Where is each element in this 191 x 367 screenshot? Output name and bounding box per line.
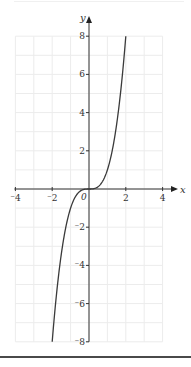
- origin-label: 0: [81, 192, 87, 202]
- x-tick-label: ⁻4: [10, 193, 21, 203]
- x-tick-label: 4: [160, 193, 166, 203]
- x-axis-arrow-icon: [171, 186, 178, 192]
- y-tick-label: ⁻6: [75, 299, 86, 309]
- y-tick-label: 4: [79, 108, 85, 118]
- y-axis-label: y: [79, 12, 86, 23]
- x-tick-label: 2: [123, 193, 129, 203]
- cubic-graph: ⁻4⁻224⁻8⁻6⁻4⁻22468 x y 0: [0, 0, 191, 367]
- axes: [14, 16, 178, 342]
- x-tick-label: ⁻2: [47, 193, 57, 203]
- y-tick-label: 2: [79, 146, 85, 156]
- y-tick-label: 8: [79, 31, 85, 41]
- y-tick-label: ⁻8: [75, 337, 86, 347]
- x-axis-label: x: [180, 184, 186, 195]
- y-axis-arrow-icon: [86, 16, 92, 23]
- y-tick-label: 6: [79, 69, 85, 79]
- bottom-divider: [0, 356, 191, 358]
- y-tick-label: ⁻2: [75, 222, 85, 232]
- y-tick-label: ⁻4: [75, 260, 86, 270]
